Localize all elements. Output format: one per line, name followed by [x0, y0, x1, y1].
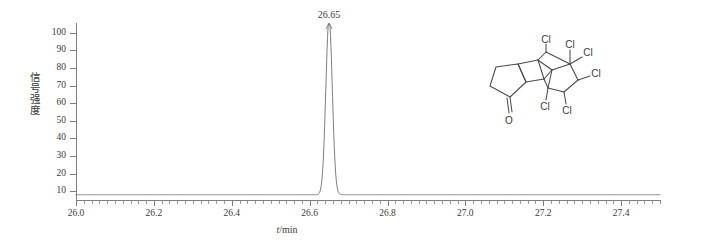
molecule-oxygen-label: O [505, 115, 513, 126]
peak-retention-time-label: 26.65 [303, 9, 355, 20]
molecule-cl-label-1: Cl [541, 34, 550, 45]
x-axis-title-unit: /min [279, 224, 297, 235]
molecule-cl-label-4: Cl [591, 68, 600, 79]
chlordecone-structure-icon: Cl Cl Cl Cl Cl Cl O [482, 34, 602, 132]
molecule-cl-label-3: Cl [583, 47, 592, 58]
x-axis-title: t/min [257, 224, 317, 235]
molecule-cl-label-2: Cl [565, 39, 574, 50]
chromatogram-figure: 信号强度 100908070605040302010 26.026.226.42… [0, 0, 701, 245]
molecule-cl-label-5: Cl [540, 101, 549, 112]
molecule-cl-label-6: Cl [562, 105, 571, 116]
